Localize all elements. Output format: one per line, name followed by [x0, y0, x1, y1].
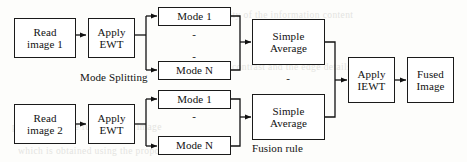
node-fused-image-line2: Image: [417, 80, 445, 92]
caption-mode-splitting: Mode Splitting: [80, 71, 148, 83]
node-simple-average-bottom-line2: Average: [270, 117, 307, 129]
node-simple-average-top-line1: Simple: [270, 30, 307, 42]
node-simple-average-top[interactable]: Simple Average: [252, 19, 325, 65]
node-mode-n-bottom-label: Mode N: [176, 139, 213, 151]
node-fused-image[interactable]: Fused Image: [407, 57, 454, 103]
edge-mode1bot-merge: [231, 99, 240, 117]
figure-canvas: the quality of the information content c…: [0, 0, 467, 162]
node-apply-iewt-line1: Apply: [358, 68, 386, 80]
node-simple-average-top-line2: Average: [270, 42, 307, 54]
node-read-image-2-line2: image 2: [27, 124, 63, 136]
node-read-image-1[interactable]: Read image 1: [14, 18, 76, 58]
node-simple-average-bottom-line1: Simple: [270, 105, 307, 117]
node-mode-n-bottom[interactable]: Mode N: [158, 136, 231, 155]
mode-ellipsis-bottom-dot-1: -: [182, 111, 206, 122]
edge-mode1top-merge: [231, 16, 240, 42]
node-apply-ewt-2[interactable]: Apply EWT: [88, 104, 135, 144]
node-apply-ewt-2-line2: EWT: [98, 124, 126, 136]
node-read-image-1-line2: image 1: [27, 38, 63, 50]
node-mode-1-bottom-label: Mode 1: [177, 93, 212, 105]
edge-avgtop-to-iewt-bus: [325, 42, 335, 80]
mode-ellipsis-top-dot-1: -: [182, 29, 206, 40]
node-apply-ewt-1-line2: EWT: [98, 38, 126, 50]
node-mode-1-top[interactable]: Mode 1: [158, 7, 231, 26]
mode-ellipsis-top: - -: [182, 29, 206, 62]
node-read-image-1-line1: Read: [27, 26, 63, 38]
edge-modenbot-merge: [231, 117, 240, 146]
node-mode-1-bottom[interactable]: Mode 1: [158, 90, 231, 109]
node-mode-n-top[interactable]: Mode N: [158, 61, 231, 80]
node-simple-average-bottom[interactable]: Simple Average: [252, 94, 325, 140]
node-read-image-2-line1: Read: [27, 112, 63, 124]
edge-modentop-merge: [231, 42, 240, 70]
node-read-image-2[interactable]: Read image 2: [14, 104, 76, 144]
caption-fusion-rule: Fusion rule: [252, 142, 303, 154]
fusion-ellipsis: -: [276, 73, 300, 84]
node-apply-iewt-line2: IEWT: [358, 80, 386, 92]
node-apply-ewt-2-line1: Apply: [98, 112, 126, 124]
edge-avgbot-to-iewt-bus: [325, 80, 335, 117]
ghost-text-row-4: which is obtained using the proposed: [18, 146, 174, 156]
node-apply-iewt[interactable]: Apply IEWT: [348, 57, 395, 103]
fusion-ellipsis-dot: -: [276, 73, 300, 84]
node-mode-1-top-label: Mode 1: [177, 10, 212, 22]
node-mode-n-top-label: Mode N: [176, 64, 213, 76]
node-apply-ewt-1-line1: Apply: [98, 26, 126, 38]
node-fused-image-line1: Fused: [417, 68, 445, 80]
node-apply-ewt-1[interactable]: Apply EWT: [88, 18, 135, 58]
